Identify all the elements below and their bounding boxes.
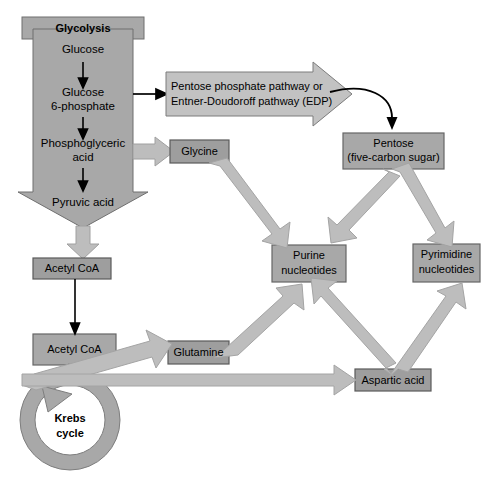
- pathway-diagram: Glycolysis Glucose Glucose 6-phosphate P…: [0, 0, 496, 493]
- purine-nucleotides-box: [272, 245, 346, 282]
- krebs-cycle-arrowhead: [42, 386, 72, 412]
- pyrimidine-nucleotides-box: [413, 244, 480, 282]
- edge-aspartic-to-purine: [311, 278, 396, 378]
- edge-glutamine-to-purine: [214, 284, 304, 358]
- ppp-arrow-shape: [166, 62, 352, 126]
- edge-pga-to-glycine: [133, 137, 174, 166]
- diagram-vector-layer: [0, 0, 496, 493]
- edge-aspartic-to-pyrimidine: [388, 283, 466, 378]
- edge-g6p-to-ppp: [133, 89, 167, 99]
- edge-glycine-to-purine: [209, 158, 290, 248]
- edge-glycolysis-to-acetylcoa: [67, 226, 99, 259]
- edge-pentose-to-purine: [328, 169, 400, 243]
- edge-acetylcoa1-to-acetylcoa2: [71, 279, 80, 334]
- pentose-box: [343, 133, 444, 169]
- edge-pentose-to-pyrimidine: [392, 163, 454, 247]
- acetyl-coa-box-1: [33, 258, 111, 279]
- edge-ppp-to-pentose-head: [387, 117, 398, 130]
